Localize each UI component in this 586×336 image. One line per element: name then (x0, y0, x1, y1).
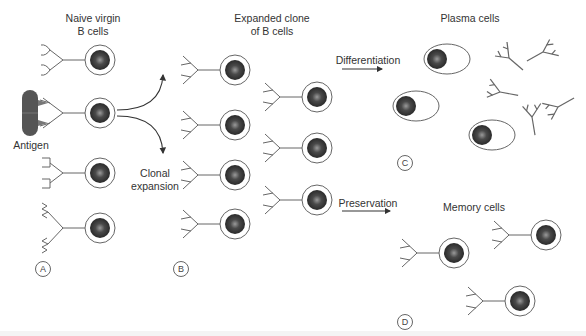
column-b-title: Expanded clone of B cells (222, 12, 322, 38)
plasma-cells (393, 44, 515, 150)
column-b-title-line1: Expanded clone (222, 12, 322, 25)
column-a-title-line2: B cells (48, 25, 138, 38)
antigen-label: Antigen (6, 139, 56, 152)
panel-tag-d: D (397, 314, 413, 330)
naive-b-cell-antigen-bound (22, 90, 115, 136)
panel-tag-a: A (35, 261, 51, 277)
plasma-cells-title: Plasma cells (420, 12, 520, 25)
memory-cells (400, 220, 561, 316)
panel-tag-c: C (397, 155, 413, 171)
naive-b-cell-1 (41, 45, 115, 75)
differentiation-label: Differentiation (333, 54, 403, 67)
clonal-expansion-arrows (117, 75, 163, 153)
bottom-band (0, 331, 586, 336)
clonal-label-line1: Clonal (125, 167, 185, 180)
column-a-title: Naive virgin B cells (48, 12, 138, 38)
panel-tag-b: B (173, 261, 189, 277)
preservation-label: Preservation (338, 197, 398, 210)
column-b-title-line2: of B cells (222, 25, 322, 38)
column-a-title-line1: Naive virgin (48, 12, 138, 25)
naive-b-cell-3 (42, 158, 115, 188)
naive-b-cell-4 (42, 203, 115, 253)
clonal-label-line2: expansion (125, 180, 185, 193)
diagram-canvas (0, 0, 586, 336)
expanded-clone (181, 55, 332, 239)
clonal-expansion-label: Clonal expansion (125, 167, 185, 193)
memory-cells-title: Memory cells (424, 201, 524, 214)
